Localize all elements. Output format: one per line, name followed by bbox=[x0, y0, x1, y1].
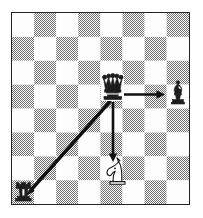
chess-board-frame bbox=[11, 12, 190, 205]
chess-diagram: Chess queen attack diagram An 8 by 8 che… bbox=[0, 0, 203, 218]
